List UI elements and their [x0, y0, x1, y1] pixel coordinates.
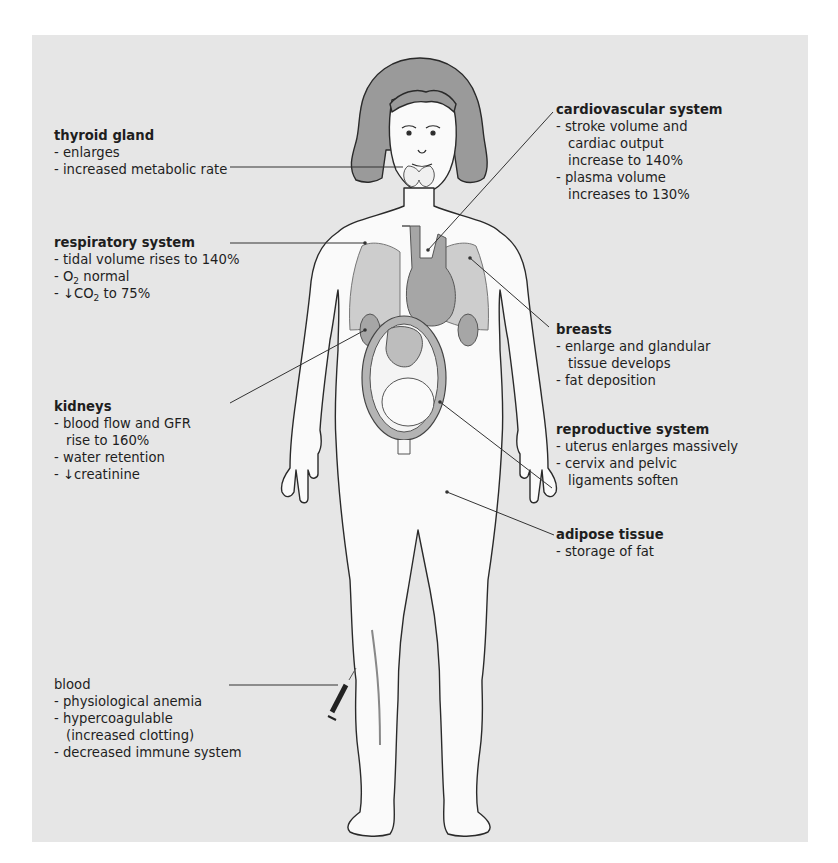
kidney-right: [458, 314, 478, 346]
thyroid-item: enlarges: [54, 144, 227, 161]
thyroid-title: thyroid gland: [54, 127, 227, 144]
annotation-cardiovascular: cardiovascular system stroke volume and …: [556, 101, 723, 203]
annotation-blood: blood physiological anemia hypercoagulab…: [54, 676, 242, 761]
co2-suffix: to 75%: [99, 286, 150, 301]
kidneys-item-cont: rise to 160%: [54, 432, 191, 449]
blood-item: physiological anemia: [54, 693, 242, 710]
cardiovascular-item-cont: increase to 140%: [556, 152, 723, 169]
kidneys-item: blood flow and GFR: [54, 415, 191, 432]
adipose-item: storage of fat: [556, 543, 664, 560]
cardiovascular-title: cardiovascular system: [556, 101, 723, 118]
cardiovascular-item-cont: cardiac output: [556, 135, 723, 152]
o2-suffix: normal: [79, 269, 129, 284]
cardiovascular-item: stroke volume and: [556, 118, 723, 135]
breasts-item: enlarge and glandular: [556, 338, 710, 355]
syringe: [332, 685, 346, 712]
kidneys-item: water retention: [54, 449, 191, 466]
annotation-respiratory: respiratory system tidal volume rises to…: [54, 234, 239, 302]
reproductive-item: cervix and pelvic: [556, 455, 738, 472]
annotation-breasts: breasts enlarge and glandular tissue dev…: [556, 321, 710, 389]
reproductive-item: uterus enlarges massively: [556, 438, 738, 455]
co2-text: ↓CO: [63, 286, 94, 301]
cardiovascular-item-cont: increases to 130%: [556, 186, 723, 203]
respiratory-co2-item: ↓CO2 to 75%: [54, 285, 239, 302]
annotation-thyroid: thyroid gland enlarges increased metabol…: [54, 127, 227, 178]
blood-item: decreased immune system: [54, 744, 242, 761]
breasts-title: breasts: [556, 321, 710, 338]
annotation-reproductive: reproductive system uterus enlarges mass…: [556, 421, 738, 489]
respiratory-o2-item: O2 normal: [54, 268, 239, 285]
adipose-title: adipose tissue: [556, 526, 664, 543]
breasts-item: fat deposition: [556, 372, 710, 389]
reproductive-item-cont: ligaments soften: [556, 472, 738, 489]
fetus-head: [382, 378, 434, 426]
respiratory-item: tidal volume rises to 140%: [54, 251, 239, 268]
annotation-adipose: adipose tissue storage of fat: [556, 526, 664, 560]
o2-text: O: [63, 269, 73, 284]
blood-title: blood: [54, 676, 242, 693]
kidneys-title: kidneys: [54, 398, 191, 415]
cardiovascular-item: plasma volume: [556, 169, 723, 186]
breasts-item-cont: tissue develops: [556, 355, 710, 372]
kidneys-item: ↓creatinine: [54, 466, 191, 483]
annotation-kidneys: kidneys blood flow and GFR rise to 160% …: [54, 398, 191, 483]
blood-item: hypercoagulable: [54, 710, 242, 727]
respiratory-title: respiratory system: [54, 234, 239, 251]
reproductive-title: reproductive system: [556, 421, 738, 438]
blood-item-cont: (increased clotting): [54, 727, 242, 744]
thyroid-item: increased metabolic rate: [54, 161, 227, 178]
